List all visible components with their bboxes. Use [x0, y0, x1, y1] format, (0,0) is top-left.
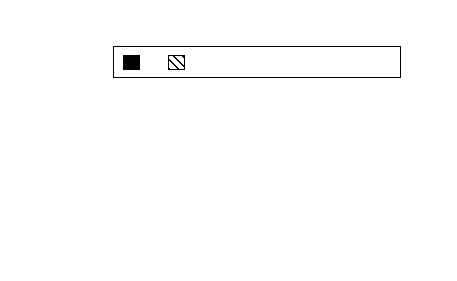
chart-legend — [113, 46, 401, 78]
legend-swatch-physicians — [123, 55, 140, 70]
chart-canvas — [0, 0, 457, 281]
legend-item-administrators — [168, 55, 191, 70]
legend-swatch-administrators — [168, 55, 185, 70]
legend-item-physicians — [123, 55, 146, 70]
plot-area — [0, 0, 457, 281]
chart-figure — [0, 0, 457, 281]
